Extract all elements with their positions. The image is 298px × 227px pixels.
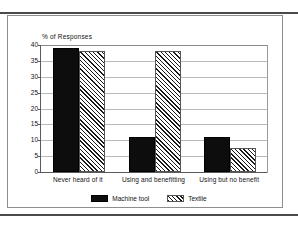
y-axis-title: % of Responses xyxy=(42,33,92,40)
legend-item[interactable]: Machine tool xyxy=(91,195,149,202)
legend-label: Textile xyxy=(188,195,206,202)
page-rule-bottom xyxy=(0,214,298,216)
bar-textile xyxy=(79,51,105,172)
y-axis-tick-mark xyxy=(38,140,41,141)
page-rule-top xyxy=(0,12,298,14)
y-axis-tick-label: 35 xyxy=(4,57,38,64)
x-axis-category-label: Using and benefitting xyxy=(116,176,192,183)
bar-machine-tool xyxy=(53,48,79,172)
chart-legend: Machine toolTextile xyxy=(0,195,298,202)
y-axis-tick-mark xyxy=(38,93,41,94)
y-axis-tick-label: 20 xyxy=(4,105,38,112)
plot-right-edge xyxy=(267,45,268,173)
y-axis-tick-label: 30 xyxy=(4,73,38,80)
y-axis-tick-mark xyxy=(38,61,41,62)
y-axis-tick-mark xyxy=(38,156,41,157)
y-axis-tick-label: 5 xyxy=(4,152,38,159)
bar-textile xyxy=(230,148,256,172)
y-axis-tick-mark xyxy=(38,109,41,110)
y-axis-tick-mark xyxy=(38,77,41,78)
bar-textile xyxy=(155,51,181,172)
x-axis-category-label: Never heard of it xyxy=(40,176,116,183)
bar-machine-tool xyxy=(129,137,155,172)
y-axis-tick-label: 25 xyxy=(4,89,38,96)
legend-label: Machine tool xyxy=(112,195,149,202)
y-axis-tick-mark xyxy=(38,45,41,46)
legend-swatch-icon xyxy=(167,195,184,202)
y-axis-tick-mark xyxy=(38,124,41,125)
plot-area: 0510152025303540 xyxy=(40,45,268,173)
y-axis-tick-label: 0 xyxy=(4,168,38,175)
gridline xyxy=(41,45,268,46)
y-axis-tick-label: 15 xyxy=(4,120,38,127)
x-axis-category-label: Using but no benefit xyxy=(191,176,267,183)
y-axis-tick-label: 10 xyxy=(4,136,38,143)
y-axis-tick-mark xyxy=(38,172,41,173)
legend-swatch-icon xyxy=(91,195,108,202)
legend-item[interactable]: Textile xyxy=(167,195,206,202)
bar-machine-tool xyxy=(204,137,230,172)
y-axis-tick-label: 40 xyxy=(4,41,38,48)
